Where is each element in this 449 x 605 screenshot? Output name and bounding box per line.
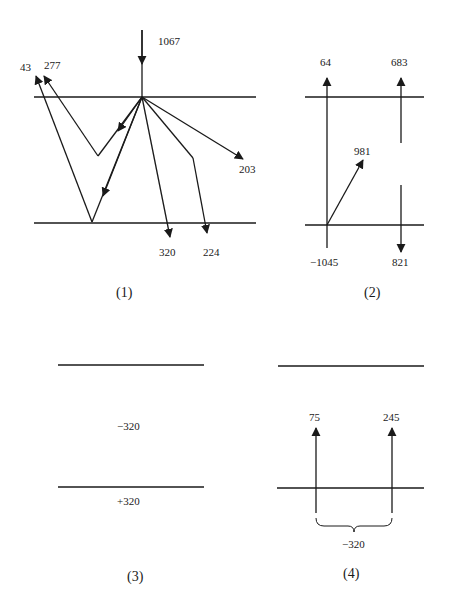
caption-panel-4: (4) bbox=[343, 566, 360, 582]
label-224: 224 bbox=[203, 246, 220, 258]
label-981: 981 bbox=[354, 145, 371, 157]
ray-43-arrowhead-icon bbox=[103, 97, 142, 196]
label-821: 821 bbox=[392, 256, 409, 268]
label-plus-320: +320 bbox=[117, 495, 140, 507]
label-75: 75 bbox=[309, 411, 321, 423]
ray-43-up bbox=[36, 76, 92, 222]
ray-320 bbox=[142, 97, 170, 237]
label-1067: 1067 bbox=[158, 35, 181, 47]
panel-2: 64 683 821 981 −1045 (2) bbox=[305, 56, 424, 301]
label-245: 245 bbox=[383, 411, 400, 423]
arrow-981 bbox=[327, 160, 363, 225]
label-43: 43 bbox=[20, 61, 32, 73]
label-64: 64 bbox=[320, 56, 332, 68]
label-277: 277 bbox=[44, 59, 61, 71]
panel-4: 75 245 −320 (4) bbox=[277, 366, 424, 582]
ray-224-segment-2 bbox=[193, 158, 207, 233]
panel-1: 1067 277 43 320 224 203 (1) bbox=[20, 30, 256, 301]
ray-277-up bbox=[44, 76, 98, 156]
caption-panel-2: (2) bbox=[364, 285, 381, 301]
ray-203 bbox=[142, 97, 243, 159]
diagram-canvas: 1067 277 43 320 224 203 (1) 64 683 821 bbox=[0, 0, 449, 605]
label-minus-320: −320 bbox=[117, 420, 140, 432]
brace-icon bbox=[316, 518, 392, 532]
label-683: 683 bbox=[391, 56, 408, 68]
caption-panel-3: (3) bbox=[127, 569, 144, 585]
ray-224-segment-1 bbox=[142, 97, 193, 158]
panel-3: −320 +320 (3) bbox=[58, 365, 204, 585]
label-brace-minus-320: −320 bbox=[342, 538, 365, 550]
caption-panel-1: (1) bbox=[116, 285, 133, 301]
label-minus-1045: −1045 bbox=[310, 256, 339, 268]
label-320: 320 bbox=[159, 246, 176, 258]
label-203: 203 bbox=[239, 163, 256, 175]
